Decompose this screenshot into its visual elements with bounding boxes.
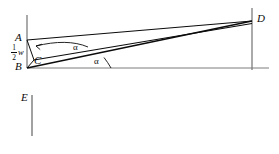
alpha-arc-lower: [104, 58, 111, 69]
half-width-label: 1 2 w: [11, 44, 24, 61]
point-label-B: B: [15, 61, 22, 72]
figure-canvas: [0, 0, 279, 154]
segment-A-to-C: [27, 40, 34, 60]
alpha-arc-upper: [36, 42, 88, 47]
segment-C-to-D: [34, 24, 252, 61]
geometry-figure: A B C D E α α 1 2 w: [0, 0, 279, 154]
point-label-E: E: [21, 92, 28, 103]
width-symbol: w: [18, 48, 24, 57]
fraction-one-half: 1 2: [11, 44, 17, 61]
angle-label-alpha-lower: α: [94, 57, 99, 66]
point-label-D: D: [257, 13, 265, 24]
segment-A-to-D: [27, 21, 252, 40]
angle-label-alpha-upper: α: [73, 43, 78, 52]
segment-B-to-D: [27, 21, 252, 68]
point-label-C: C: [34, 55, 41, 66]
fraction-denominator: 2: [11, 53, 17, 61]
fraction-numerator: 1: [11, 44, 17, 52]
point-label-A: A: [15, 32, 22, 43]
